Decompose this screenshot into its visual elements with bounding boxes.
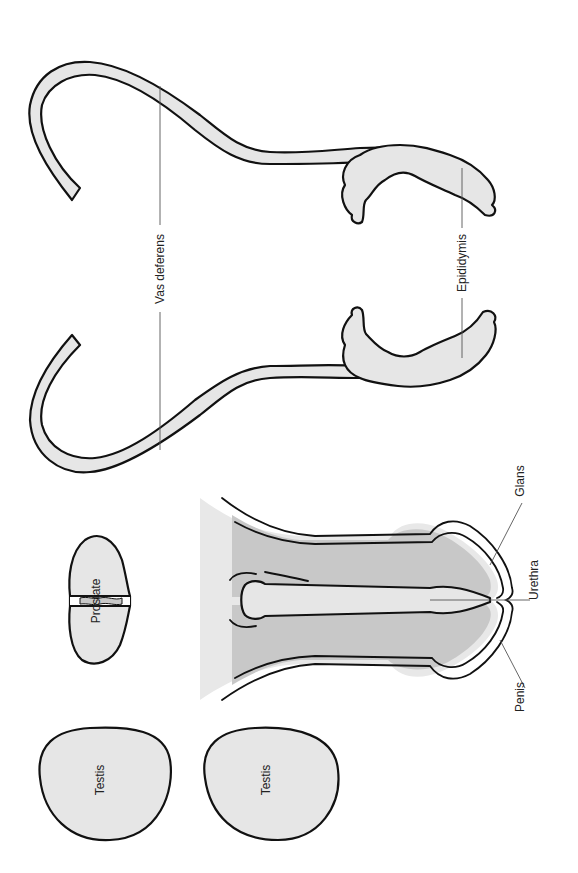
prostate-label: Prostate [89,578,103,623]
vas-deferens-label: Vas deferens [153,234,167,304]
testis-1-label: Testis [93,765,107,796]
epididymis-lower [342,308,495,387]
prostate: Prostate [69,536,130,663]
glans-label: Glans [513,465,527,496]
glans-leader [490,503,522,565]
testis-2: Testis [204,728,338,840]
anatomy-diagram: Vas deferens Epididymis Prostate Glans U… [0,0,578,873]
urethra-label: Urethra [527,560,541,600]
testis-1: Testis [39,728,170,841]
epididymis-upper [342,145,495,223]
vas-deferens-lower [30,308,496,473]
penis-leader [500,640,525,688]
epididymis-label: Epididymis [455,234,469,292]
penis [200,498,530,700]
testis-2-label: Testis [259,765,273,796]
vas-deferens-upper [29,62,495,223]
penis-label: Penis [513,682,527,712]
